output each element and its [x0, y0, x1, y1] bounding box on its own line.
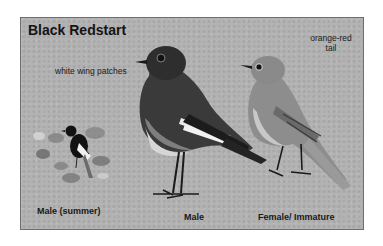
caption-male-summer: Male (summer) — [37, 206, 101, 216]
wing-patch-annotation: white wing patches — [55, 66, 127, 76]
tail-annotation-line1: orange-red — [301, 33, 361, 43]
caption-male: Male — [184, 212, 204, 222]
male-illustration — [135, 46, 267, 198]
plate-title: Black Redstart — [28, 22, 126, 38]
caption-female-immature: Female/ Immature — [258, 212, 335, 222]
illustration-plate: Black Redstart white wing patches orange… — [20, 17, 364, 230]
female-illustration — [240, 56, 351, 190]
tail-annotation: orange-red tail — [301, 33, 361, 53]
summer-male-illustration — [33, 126, 110, 184]
tail-annotation-line2: tail — [301, 43, 361, 53]
